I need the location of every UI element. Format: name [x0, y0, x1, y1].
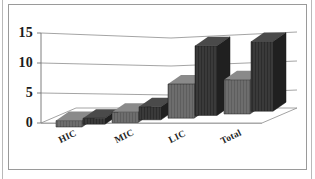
y-tick-label-0: 0 [9, 116, 33, 130]
y-tick-label-10: 10 [9, 56, 33, 70]
y-tick-label-15: 15 [9, 26, 33, 40]
bar-chart-canvas [9, 5, 308, 171]
y-tick-label-5: 5 [9, 86, 33, 100]
chart-figure: 15 10 5 0 HIC MIC LIC Total [8, 4, 307, 170]
page-edge-left [2, 0, 3, 179]
scanned-page: 15 10 5 0 HIC MIC LIC Total [0, 0, 315, 179]
plot-area: 15 10 5 0 HIC MIC LIC Total [9, 5, 308, 171]
bar-total-series2 [251, 33, 286, 112]
page-edge-right [311, 0, 312, 179]
y-tick-marks [37, 33, 41, 123]
